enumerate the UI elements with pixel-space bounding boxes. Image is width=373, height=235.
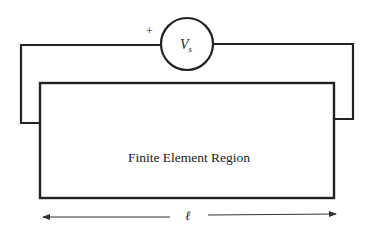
diagram-canvas: Vs + Finite Element Region ℓ [0, 0, 373, 235]
finite-element-region [40, 83, 334, 198]
region-label: Finite Element Region [128, 150, 250, 165]
length-arrow-right [208, 214, 336, 215]
polarity-plus: + [146, 24, 153, 38]
length-label: ℓ [185, 208, 191, 223]
circuit-diagram: Vs + Finite Element Region ℓ [0, 0, 373, 235]
